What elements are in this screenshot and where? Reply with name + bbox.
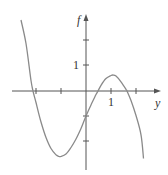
y-axis-label: f (77, 13, 82, 27)
function-graph: f y 1 1 (0, 0, 168, 175)
x-tick-label-1: 1 (108, 95, 114, 109)
x-axis-label: y (154, 96, 161, 110)
x-axis-arrow-icon (154, 89, 161, 94)
y-axis-arrow-icon (84, 14, 89, 21)
y-tick-label-1: 1 (73, 58, 79, 72)
function-curve (21, 20, 144, 159)
